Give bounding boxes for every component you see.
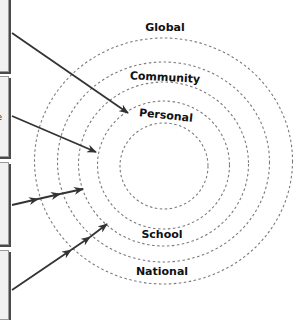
arrow-2 (12, 116, 96, 152)
arrow-1 (12, 33, 128, 113)
label-national: National (136, 265, 188, 278)
label-global: Global (145, 21, 184, 34)
ring-community (79, 82, 249, 246)
label-community: Community (130, 69, 201, 86)
label-school: School (141, 228, 182, 241)
ring-personal (120, 123, 208, 209)
arrow-3-multi (12, 189, 83, 205)
label-personal: Personal (138, 106, 193, 125)
